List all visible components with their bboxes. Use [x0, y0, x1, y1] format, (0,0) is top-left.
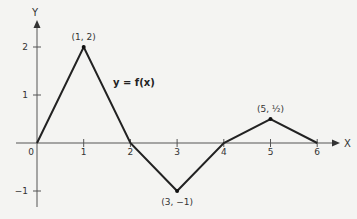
data-point — [82, 45, 86, 49]
y-tick-label: 2 — [22, 42, 28, 52]
x-tick-label: 3 — [174, 147, 180, 157]
x-axis-arrow-icon — [332, 140, 340, 147]
data-point — [175, 189, 179, 193]
x-tick-label: 0 — [28, 147, 34, 157]
point-annotation: (5, ½) — [257, 104, 284, 114]
chart: 0123456−112 X Y (1, 2)(3, −1)(5, ½) y = … — [0, 0, 357, 219]
data-point — [269, 117, 273, 121]
function-label: y = f(x) — [113, 77, 155, 88]
point-annotation: (3, −1) — [161, 197, 193, 207]
y-tick-label: 1 — [22, 90, 28, 100]
annotated-points: (1, 2)(3, −1)(5, ½) — [72, 32, 285, 207]
point-annotation: (1, 2) — [72, 32, 96, 42]
tick-labels: 0123456−112 — [15, 42, 321, 196]
function-curve — [37, 47, 317, 191]
y-axis-arrow-icon — [34, 20, 41, 28]
x-tick-label: 1 — [81, 147, 87, 157]
axis-ticks — [33, 47, 317, 191]
x-axis-label: X — [344, 138, 351, 149]
x-tick-label: 4 — [221, 147, 227, 157]
x-tick-label: 6 — [314, 147, 320, 157]
y-axis-label: Y — [31, 7, 39, 18]
x-tick-label: 5 — [268, 147, 274, 157]
x-tick-label: 2 — [128, 147, 134, 157]
y-tick-label: −1 — [15, 186, 28, 196]
